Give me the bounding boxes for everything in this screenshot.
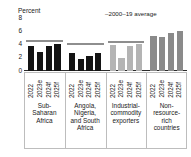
average-line-group-1	[67, 43, 104, 45]
bar-1-3	[95, 53, 101, 71]
group-label-line: Nigeria,	[65, 109, 106, 116]
bar-1-0	[69, 53, 75, 71]
y-axis-tick-4: 4	[18, 41, 22, 48]
group-label-line: Angola,	[65, 102, 106, 109]
bar-3-0	[150, 36, 156, 71]
bar-0-2	[46, 46, 52, 71]
group-label-2: Industrial-commodityexporters	[106, 99, 147, 124]
group-label-3: Non-resource-richcountries	[146, 99, 187, 132]
bar-2-2	[127, 46, 133, 71]
plot-area: 02468	[24, 17, 187, 71]
group-label-line: and South	[65, 117, 106, 124]
y-axis-tick-8: 8	[18, 15, 22, 22]
group-label-line: Sub-	[24, 102, 65, 109]
group-label-line: Saharan	[24, 109, 65, 116]
group-label-1: Angola,Nigeria,and SouthAfrica	[65, 99, 106, 132]
group-label-line: Africa	[65, 124, 106, 131]
y-axis-tick-0: 0	[18, 68, 22, 75]
chart-legend: –2000–19 average	[105, 10, 157, 17]
group-name-band: Sub-SaharanAfricaAngola,Nigeria,and Sout…	[24, 99, 187, 149]
bar-1-1	[78, 59, 84, 71]
bar-2-1	[118, 58, 124, 71]
bar-1-2	[86, 56, 92, 71]
group-label-line: commodity	[106, 109, 147, 116]
group-label-0: Sub-SaharanAfrica	[24, 99, 65, 124]
group-label-line: countries	[146, 124, 187, 131]
bar-0-0	[28, 46, 34, 71]
group-label-line: resource-	[146, 109, 187, 116]
bar-0-1	[37, 52, 43, 71]
group-label-line: Industrial-	[106, 102, 147, 109]
bar-2-0	[110, 45, 116, 72]
bar-chart: Percent –2000–19 average 02468 20222023e…	[0, 0, 191, 157]
bar-2-3	[136, 44, 142, 71]
bar-3-3	[177, 31, 183, 71]
average-legend-label: –2000–19 average	[105, 10, 157, 17]
bar-3-1	[159, 37, 165, 71]
y-axis-tick-6: 6	[18, 28, 22, 35]
y-axis-tick-2: 2	[18, 55, 22, 62]
group-label-line: exporters	[106, 117, 147, 124]
average-line-group-2	[108, 41, 145, 43]
group-label-line: Non-	[146, 102, 187, 109]
group-label-line: Africa	[24, 117, 65, 124]
group-label-line: rich	[146, 117, 187, 124]
average-line-group-0	[26, 40, 63, 42]
bar-0-3	[54, 44, 60, 71]
bar-3-2	[168, 33, 174, 71]
